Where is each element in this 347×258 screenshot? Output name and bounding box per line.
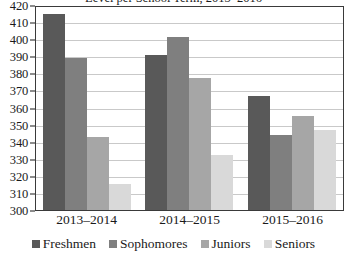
legend-swatch-icon xyxy=(32,240,40,248)
y-axis-tick-label: 330 xyxy=(10,154,28,166)
x-axis-tick-label: 2014–2015 xyxy=(159,212,220,228)
bar-groups xyxy=(36,7,343,210)
y-axis-tick-label: 310 xyxy=(10,188,28,200)
bar-chart-figure: Level per School Term, 2013–2016 4204104… xyxy=(0,0,347,258)
y-axis-tick-label: 400 xyxy=(10,34,28,46)
x-axis: 2013–20142014–20152015–2016 xyxy=(35,212,344,230)
y-axis-tick-label: 390 xyxy=(10,51,28,63)
bar-group xyxy=(248,7,336,210)
y-axis-tick-label: 410 xyxy=(10,17,28,29)
legend-item[interactable]: Juniors xyxy=(201,236,251,251)
bar-group xyxy=(145,7,233,210)
y-axis-tick-label: 340 xyxy=(10,137,28,149)
plot-region: 420410400390380370360350340330320310300 xyxy=(0,6,347,211)
legend-item[interactable]: Seniors xyxy=(264,236,316,251)
y-axis-tick-label: 300 xyxy=(10,205,28,217)
legend-item[interactable]: Freshmen xyxy=(32,236,96,251)
y-axis: 420410400390380370360350340330320310300 xyxy=(0,6,30,211)
chart-legend: FreshmenSophomoresJuniorsSeniors xyxy=(0,236,347,251)
legend-label: Freshmen xyxy=(43,236,96,251)
y-axis-tick-label: 350 xyxy=(10,120,28,132)
bar xyxy=(292,116,314,210)
legend-item[interactable]: Sophomores xyxy=(109,236,188,251)
legend-label: Seniors xyxy=(275,236,316,251)
bar-group xyxy=(43,7,131,210)
legend-swatch-icon xyxy=(109,240,117,248)
legend-swatch-icon xyxy=(264,240,272,248)
y-axis-tick-label: 370 xyxy=(10,85,28,97)
bar xyxy=(87,137,109,210)
bar xyxy=(314,130,336,210)
bar xyxy=(145,55,167,210)
plot-area xyxy=(35,6,344,211)
bar xyxy=(248,96,270,210)
y-axis-tick-label: 320 xyxy=(10,171,28,183)
chart-title: Level per School Term, 2013–2016 xyxy=(0,0,347,5)
legend-swatch-icon xyxy=(201,240,209,248)
legend-label: Sophomores xyxy=(120,236,188,251)
y-axis-tick-label: 360 xyxy=(10,103,28,115)
bar xyxy=(167,37,189,210)
legend-label: Juniors xyxy=(212,236,251,251)
bar xyxy=(189,78,211,210)
bar xyxy=(43,14,65,210)
y-axis-tick-label: 380 xyxy=(10,68,28,80)
x-axis-tick-label: 2015–2016 xyxy=(262,212,323,228)
x-axis-tick-label: 2013–2014 xyxy=(56,212,117,228)
bar xyxy=(109,184,131,210)
bar xyxy=(211,155,233,210)
bar xyxy=(65,58,87,210)
bar xyxy=(270,135,292,210)
y-axis-tick-label: 420 xyxy=(10,0,28,12)
